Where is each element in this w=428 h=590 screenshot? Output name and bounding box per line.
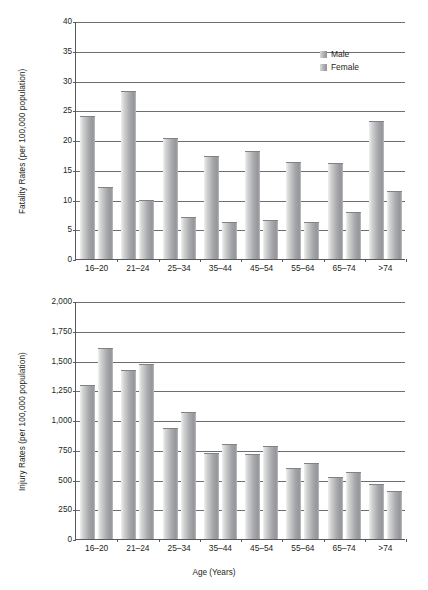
x-axis-tick-mark <box>200 539 201 542</box>
x-axis-tick-mark <box>406 539 407 542</box>
x-axis-tick-label: 65–74 <box>332 544 355 552</box>
bar-female-21–24 <box>139 200 154 259</box>
y-axis-tick-label: 750 <box>58 447 72 455</box>
bar-male-65–74 <box>328 163 343 259</box>
x-axis-tick-mark <box>365 259 366 262</box>
y-axis-tick-label: 0 <box>67 536 72 544</box>
bar-female-55–64 <box>304 222 319 259</box>
x-axis-tick-label: >74 <box>378 264 392 272</box>
gridline <box>76 362 405 363</box>
bar-female-16–20 <box>98 348 113 539</box>
x-axis-tick-label: 45–54 <box>250 544 273 552</box>
y-axis-tick-label: 40 <box>63 18 72 26</box>
y-axis-tick-label: 1,000 <box>52 417 73 425</box>
plot-top-border <box>76 302 405 303</box>
y-axis-tick-mark <box>73 481 76 482</box>
bar-female-35–44 <box>222 444 237 539</box>
bar-female-45–54 <box>263 220 278 259</box>
bar-male-25–34 <box>163 428 178 539</box>
x-axis-tick-label: 25–34 <box>167 264 190 272</box>
legend-label-female: Female <box>331 63 359 71</box>
y-axis-tick-label: 2,000 <box>52 298 73 306</box>
x-axis-tick-mark <box>159 259 160 262</box>
bar-female-55–64 <box>304 463 319 539</box>
y-axis-tick-mark <box>73 391 76 392</box>
x-axis-tick-label: 21–24 <box>126 544 149 552</box>
y-axis-tick-mark <box>73 451 76 452</box>
y-axis-tick-mark <box>73 332 76 333</box>
bar-male-45–54 <box>245 151 260 259</box>
y-axis-tick-mark <box>73 540 76 541</box>
legend-fatality: Male Female <box>320 50 359 77</box>
y-axis-tick-mark <box>73 510 76 511</box>
y-axis-tick-label: 500 <box>58 476 72 484</box>
bar-female-65–74 <box>346 472 361 539</box>
y-axis-tick-label: 1,750 <box>52 328 73 336</box>
x-axis-tick-mark <box>365 539 366 542</box>
y-axis-tick-mark <box>73 230 76 231</box>
x-axis-tick-label: 25–34 <box>167 544 190 552</box>
x-axis-tick-mark <box>324 259 325 262</box>
chart-injury-rates: Injury Rates (per 100,000 population) 02… <box>0 292 428 590</box>
y-axis-tick-mark <box>73 82 76 83</box>
y-axis-tick-label: 20 <box>63 137 72 145</box>
bar-female-16–20 <box>98 187 113 259</box>
x-axis-tick-mark <box>241 539 242 542</box>
bar-male-16–20 <box>80 116 95 259</box>
y-axis-tick-label: 5 <box>67 226 72 234</box>
x-axis-tick-mark <box>159 539 160 542</box>
x-axis-tick-mark <box>282 259 283 262</box>
bar-male-25–34 <box>163 138 178 259</box>
figure: Fatality Rates (per 100,000 population) … <box>0 0 428 590</box>
chart-fatality-rates: Fatality Rates (per 100,000 population) … <box>0 0 428 292</box>
bar-male-45–54 <box>245 454 260 539</box>
bar-male->74 <box>369 484 384 539</box>
legend-item-male: Male <box>320 50 359 58</box>
y-axis-tick-label: 35 <box>63 48 72 56</box>
y-axis-tick-label: 0 <box>67 256 72 264</box>
x-axis-title-age: Age (Years) <box>0 568 428 577</box>
x-axis-tick-mark <box>117 539 118 542</box>
x-axis-tick-label: 65–74 <box>332 264 355 272</box>
y-axis-tick-label: 1,500 <box>52 357 73 365</box>
y-axis-tick-label: 10 <box>63 196 72 204</box>
legend-label-male: Male <box>331 50 349 58</box>
bar-male->74 <box>369 121 384 259</box>
bar-female-35–44 <box>222 222 237 259</box>
bar-male-21–24 <box>121 91 136 259</box>
bar-female->74 <box>387 491 402 539</box>
x-axis-tick-mark <box>324 539 325 542</box>
x-axis-tick-label: 55–64 <box>291 264 314 272</box>
x-axis-tick-mark <box>282 539 283 542</box>
plot-top-border <box>76 22 405 23</box>
gridline <box>76 332 405 333</box>
x-axis-tick-mark <box>406 259 407 262</box>
x-axis-tick-label: >74 <box>378 544 392 552</box>
x-axis-tick-label: 55–64 <box>291 544 314 552</box>
bar-male-55–64 <box>286 162 301 259</box>
bar-female-21–24 <box>139 364 154 539</box>
y-axis-tick-label: 1,250 <box>52 387 73 395</box>
bar-female-25–34 <box>181 217 196 259</box>
y-axis-tick-mark <box>73 52 76 53</box>
y-axis-tick-mark <box>73 111 76 112</box>
y-axis-tick-label: 250 <box>58 506 72 514</box>
bar-female->74 <box>387 191 402 259</box>
bar-female-45–54 <box>263 446 278 539</box>
bar-male-65–74 <box>328 477 343 539</box>
bar-male-21–24 <box>121 370 136 539</box>
x-axis-tick-label: 16–20 <box>85 264 108 272</box>
y-axis-title-injury: Injury Rates (per 100,000 population) <box>18 352 27 491</box>
legend-swatch-male-icon <box>320 51 327 58</box>
y-axis-tick-label: 30 <box>63 77 72 85</box>
x-axis-tick-label: 21–24 <box>126 264 149 272</box>
y-axis-tick-mark <box>73 260 76 261</box>
legend-swatch-female-icon <box>320 64 327 71</box>
bar-male-35–44 <box>204 453 219 539</box>
x-axis-tick-mark <box>200 259 201 262</box>
x-axis-tick-mark <box>117 259 118 262</box>
x-axis-tick-label: 35–44 <box>209 264 232 272</box>
y-axis-tick-label: 15 <box>63 167 72 175</box>
x-axis-tick-mark <box>241 259 242 262</box>
y-axis-tick-mark <box>73 201 76 202</box>
